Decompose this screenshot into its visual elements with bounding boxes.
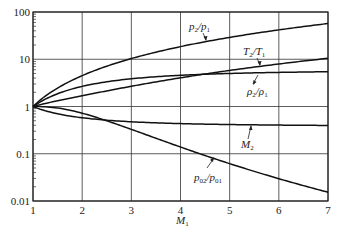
svg-text:0.1: 0.1 bbox=[16, 148, 30, 160]
svg-text:2: 2 bbox=[79, 204, 85, 216]
svg-text:10: 10 bbox=[19, 53, 31, 65]
svg-text:3: 3 bbox=[129, 204, 135, 216]
svg-text:5: 5 bbox=[227, 204, 233, 216]
svg-text:7: 7 bbox=[325, 204, 331, 216]
svg-text:0.01: 0.01 bbox=[11, 195, 30, 207]
label-p2-p1: p2/p1 bbox=[188, 20, 211, 34]
svg-text:1: 1 bbox=[25, 101, 31, 113]
label-p02-p01: p02/p01 bbox=[193, 171, 223, 185]
label-m2: M2 bbox=[240, 138, 254, 152]
svg-text:100: 100 bbox=[14, 6, 31, 18]
x-axis-label: M1 bbox=[175, 214, 189, 228]
y-tick-labels: 0.010.1110100 bbox=[11, 6, 31, 207]
svg-text:1: 1 bbox=[30, 204, 36, 216]
grid bbox=[33, 12, 328, 201]
svg-text:6: 6 bbox=[276, 204, 282, 216]
normal-shock-chart: 0.010.1110100 1234567 p2/p1 T2/T1 ρ2/ρ1 … bbox=[0, 0, 338, 236]
label-rho2-rho1: ρ2/ρ1 bbox=[246, 85, 268, 99]
label-t2-t1: T2/T1 bbox=[243, 45, 266, 59]
